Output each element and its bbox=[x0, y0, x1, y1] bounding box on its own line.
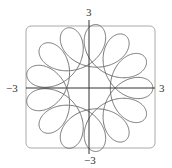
x-max-tick-label: 3 bbox=[159, 83, 165, 94]
x-min-tick-label: −3 bbox=[6, 83, 18, 94]
y-max-tick-label: 3 bbox=[86, 7, 92, 18]
parametric-plot bbox=[0, 0, 172, 168]
y-min-tick-label: −3 bbox=[84, 155, 96, 166]
